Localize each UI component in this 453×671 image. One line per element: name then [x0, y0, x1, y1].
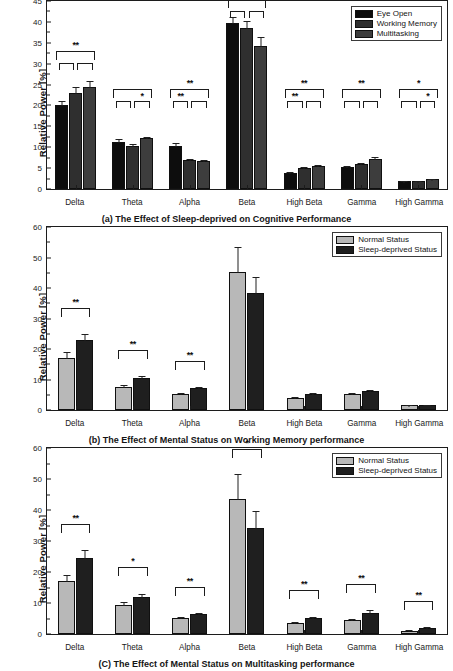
bracket-top-line: [134, 101, 149, 102]
significance-marker: *: [141, 93, 144, 100]
bracket-leg: [134, 101, 135, 108]
bracket-leg: [432, 601, 433, 610]
bracket-leg: [173, 101, 174, 108]
bar-group: [104, 448, 161, 634]
error-bar: [180, 618, 181, 619]
bar: [305, 394, 322, 410]
y-axis-tick-label: 25: [33, 80, 42, 89]
bar: [112, 142, 125, 189]
error-bar: [295, 398, 296, 399]
bracket-top-line: [191, 101, 206, 102]
legend-swatch: [355, 10, 373, 18]
error-bar: [89, 82, 90, 88]
bracket-leg: [359, 101, 360, 108]
error-bar: [295, 623, 296, 624]
x-axis-tick-mark: [418, 185, 419, 189]
x-axis-tick-label: High Gamma: [391, 643, 448, 652]
error-bar: [409, 631, 410, 632]
bracket-leg: [130, 101, 131, 108]
panel-a-x-axis-labels: DeltaThetaAlphaBetaHigh BetaGammaHigh Ga…: [46, 198, 448, 207]
significance-bracket: **: [56, 47, 95, 61]
error-bar: [375, 158, 376, 160]
bar: [247, 528, 264, 634]
error-bar-cap: [186, 159, 193, 160]
bracket-leg: [77, 63, 78, 70]
error-bar: [84, 335, 85, 341]
bar: [76, 340, 93, 410]
legend-swatch: [336, 457, 354, 465]
bar: [398, 181, 411, 189]
x-axis-tick-label: Theta: [103, 198, 160, 207]
significance-bracket-inner: [306, 98, 321, 110]
error-bar-cap: [344, 166, 351, 167]
error-bar-cap: [415, 181, 422, 182]
bracket-top-line: [249, 11, 264, 12]
bar-group: [161, 227, 218, 410]
bracket-leg: [170, 89, 171, 98]
bar: [254, 46, 267, 189]
bracket-leg: [204, 587, 205, 596]
panel-c: Relative Power [%] Normal StatusSleep-de…: [0, 447, 453, 671]
significance-marker: **: [73, 299, 79, 306]
bracket-leg: [323, 89, 324, 98]
error-bar-cap: [234, 247, 241, 248]
bar: [133, 597, 150, 634]
significance-bracket: **: [118, 346, 148, 360]
bracket-leg: [285, 89, 286, 98]
bracket-top-line: [61, 308, 91, 309]
bracket-leg: [375, 584, 376, 593]
error-bar-cap: [120, 602, 127, 603]
y-axis-tick-label: 10: [33, 599, 42, 608]
x-axis-tick-label: Delta: [46, 643, 103, 652]
error-bar-cap: [129, 144, 136, 145]
error-bar-cap: [195, 387, 202, 388]
error-bar-cap: [358, 163, 365, 164]
bar-group: [218, 448, 275, 634]
significance-bracket-inner: [77, 60, 92, 72]
legend-item: Working Memory: [355, 19, 437, 28]
error-bar: [290, 173, 291, 174]
bracket-leg: [208, 89, 209, 98]
error-bar-cap: [63, 352, 70, 353]
error-bar: [237, 475, 238, 500]
error-bar-cap: [401, 181, 408, 182]
bracket-leg: [94, 51, 95, 60]
significance-marker: *: [131, 558, 134, 565]
error-bar-cap: [138, 376, 145, 377]
bracket-leg: [420, 101, 421, 108]
bracket-leg: [147, 567, 148, 576]
error-bar: [409, 406, 410, 407]
bracket-leg: [399, 89, 400, 98]
bracket-top-line: [116, 101, 131, 102]
legend-item: Sleep-deprived Status: [336, 245, 437, 254]
significance-bracket: **: [342, 85, 381, 99]
x-axis-tick-mark: [304, 406, 305, 410]
legend-label: Sleep-deprived Status: [358, 245, 437, 254]
significance-bracket: **: [289, 586, 319, 600]
y-axis-tick-label: 30: [33, 59, 42, 68]
x-axis-tick-mark: [418, 630, 419, 634]
bracket-leg: [302, 101, 303, 108]
y-axis-tick-label: 0: [38, 630, 42, 639]
bar-group: [276, 448, 333, 634]
x-axis-tick-label: Theta: [103, 643, 160, 652]
bracket-top-line: [363, 101, 378, 102]
bracket-leg: [342, 89, 343, 98]
panel-b: Relative Power [%] Normal StatusSleep-de…: [0, 226, 453, 447]
x-axis-tick-mark: [304, 630, 305, 634]
bracket-leg: [320, 101, 321, 108]
bar: [115, 605, 132, 634]
error-bar-cap: [367, 610, 374, 611]
bracket-leg: [56, 51, 57, 60]
bar: [369, 159, 382, 189]
legend-label: Eye Open: [377, 9, 413, 18]
error-bar-cap: [86, 81, 93, 82]
error-bar-cap: [120, 385, 127, 386]
x-axis-tick-mark: [361, 630, 362, 634]
bar: [76, 558, 93, 634]
significance-marker: *: [426, 93, 429, 100]
y-axis-tick-label: 50: [33, 475, 42, 484]
bracket-top-line: [118, 567, 148, 568]
bracket-leg: [187, 101, 188, 108]
y-axis-tick-label: 20: [33, 345, 42, 354]
